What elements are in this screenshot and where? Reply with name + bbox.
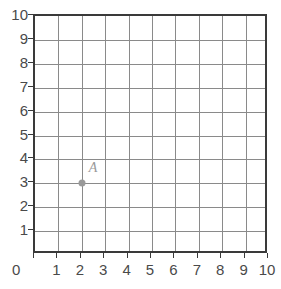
data-point-label: A <box>89 161 98 175</box>
gridline-horizontal <box>35 159 265 160</box>
x-axis-tick <box>150 253 151 258</box>
x-axis-tick <box>220 253 221 258</box>
gridline-horizontal <box>35 64 265 65</box>
x-axis-tick-label: 8 <box>216 262 224 277</box>
x-axis-tick-label: 10 <box>259 262 276 277</box>
y-axis-tick-label: 5 <box>20 126 28 141</box>
x-axis-tick <box>103 253 104 258</box>
gridline-vertical <box>82 16 83 251</box>
plot-area: A <box>33 14 267 253</box>
gridline-horizontal <box>35 112 265 113</box>
y-axis-tick <box>28 157 33 158</box>
x-axis-tick <box>56 253 57 258</box>
coordinate-grid-figure: A 12345678910 12345678910 0 <box>0 0 281 289</box>
x-axis-tick-label: 9 <box>239 262 247 277</box>
x-axis-tick <box>33 253 34 258</box>
gridline-horizontal <box>35 136 265 137</box>
gridline-horizontal <box>35 207 265 208</box>
gridline-horizontal <box>35 40 265 41</box>
y-axis-tick <box>28 86 33 87</box>
y-axis-tick <box>28 181 33 182</box>
x-axis-tick-label: 4 <box>122 262 130 277</box>
gridline-horizontal <box>35 231 265 232</box>
x-axis-tick-label: 6 <box>169 262 177 277</box>
y-axis-tick <box>28 229 33 230</box>
y-axis-tick <box>28 14 33 15</box>
gridline-vertical <box>105 16 106 251</box>
y-axis-tick <box>28 38 33 39</box>
x-axis-tick <box>80 253 81 258</box>
gridline-vertical <box>175 16 176 251</box>
gridline-vertical <box>222 16 223 251</box>
y-axis-tick <box>28 205 33 206</box>
x-axis-tick <box>173 253 174 258</box>
x-axis-tick <box>267 253 268 258</box>
y-axis-tick-label: 3 <box>20 174 28 189</box>
gridline-vertical <box>246 16 247 251</box>
y-axis-tick-label: 8 <box>20 54 28 69</box>
y-axis-tick-label: 10 <box>11 7 28 22</box>
y-axis-tick-label: 4 <box>20 150 28 165</box>
x-axis-tick <box>244 253 245 258</box>
gridline-vertical <box>129 16 130 251</box>
x-axis-tick-label: 5 <box>146 262 154 277</box>
data-point-marker[interactable] <box>78 180 85 187</box>
x-axis-tick-label: 3 <box>99 262 107 277</box>
y-axis-tick-label: 6 <box>20 102 28 117</box>
y-axis-tick <box>28 134 33 135</box>
y-axis-tick <box>28 62 33 63</box>
gridline-horizontal <box>35 183 265 184</box>
y-axis-tick-label: 7 <box>20 78 28 93</box>
y-axis-tick-label: 1 <box>20 222 28 237</box>
gridline-vertical <box>152 16 153 251</box>
y-axis-tick <box>28 110 33 111</box>
x-axis-tick-label: 1 <box>52 262 60 277</box>
x-axis-tick <box>127 253 128 258</box>
y-axis-tick-label: 2 <box>20 198 28 213</box>
gridline-horizontal <box>35 88 265 89</box>
y-axis-tick-label: 9 <box>20 30 28 45</box>
x-axis-tick-label: 7 <box>193 262 201 277</box>
origin-label: 0 <box>12 262 20 277</box>
x-axis-tick-label: 2 <box>76 262 84 277</box>
x-axis-tick <box>197 253 198 258</box>
gridline-vertical <box>58 16 59 251</box>
gridline-vertical <box>199 16 200 251</box>
